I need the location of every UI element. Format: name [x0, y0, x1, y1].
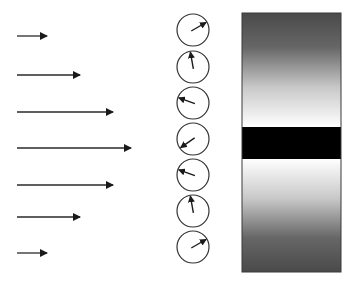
phasor-clock-4 [177, 123, 209, 155]
magnitude-arrows [17, 36, 131, 253]
phasor-clock-6 [177, 195, 209, 227]
phasor-clocks [177, 14, 209, 263]
intensity-bar [242, 13, 341, 272]
phasor-clock-7 [177, 231, 209, 263]
gradient-upper [242, 13, 341, 127]
phasor-clock-3 [177, 87, 209, 119]
diagram-canvas [0, 0, 356, 284]
phasor-clock-2 [177, 51, 209, 83]
black-band [242, 127, 341, 159]
gradient-lower [242, 159, 341, 272]
phasor-clock-5 [177, 159, 209, 191]
phasor-clock-1 [177, 14, 209, 46]
